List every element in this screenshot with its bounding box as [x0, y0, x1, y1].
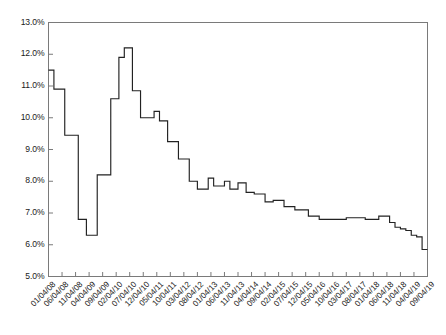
y-tick-label: 13.0% [21, 17, 45, 27]
step-line-chart: 13.0%12.0%11.0%10.0%9.0%8.0%7.0%6.0%5.0%… [0, 0, 446, 335]
plot-frame [49, 23, 428, 277]
y-tick-label: 8.0% [25, 175, 44, 185]
y-tick-label: 5.0% [25, 271, 44, 281]
y-tick-label: 6.0% [25, 239, 44, 249]
y-tick-label: 7.0% [25, 207, 44, 217]
y-tick-label: 10.0% [21, 112, 45, 122]
y-tick-label: 12.0% [21, 48, 45, 58]
y-tick-label: 11.0% [21, 80, 44, 90]
y-tick-label: 9.0% [25, 144, 44, 154]
plot-area-border [49, 23, 428, 277]
